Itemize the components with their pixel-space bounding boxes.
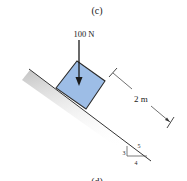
- slope-run-label: 4: [135, 160, 138, 166]
- slope-hypotenuse-label: 5: [138, 143, 141, 149]
- diagram-canvas: (c) 100 N 2 m 3 4 5 (d): [0, 0, 187, 181]
- incline-diagram: (c) 100 N 2 m 3 4 5 (d): [0, 0, 187, 181]
- slope-rise-label: 3: [123, 150, 126, 156]
- force-label: 100 N: [73, 29, 94, 39]
- dimension-label: 2 m: [134, 94, 148, 104]
- part-label: (c): [91, 5, 102, 17]
- next-part-label: (d): [91, 176, 103, 181]
